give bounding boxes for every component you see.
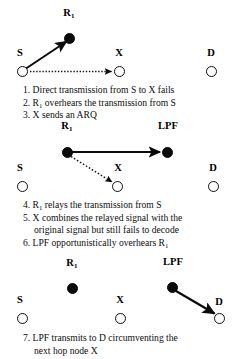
relay-sequence-diagram: R1 S X D 1. Direct transmission from S t… [0,0,235,359]
caption-line-2: 2. R1 overhears the transmission from S [23,97,235,110]
edge-lpf-to-d [176,291,215,314]
node-label-d: D [209,163,217,173]
node-label-r1: R1 [63,8,74,18]
node-x[interactable] [115,313,126,324]
node-label-lpf: LPF [158,121,178,131]
node-label-s: S [17,48,23,58]
caption-line-2-head: 2. R [23,97,39,108]
caption-line-2-sub: 1 [39,102,42,109]
node-label-x: X [114,163,122,173]
caption-line-6-head: 6. LPF opportunistically overhears R [23,237,165,248]
node-x[interactable] [114,66,125,77]
node-label-r1-text: R [63,7,71,18]
caption-line-6: 6. LPF opportunistically overhears R1 [23,237,235,250]
node-x[interactable] [112,181,123,192]
caption-line-1: 1. Direct transmission from S to X fails [23,84,235,97]
caption-line-4-sub: 1 [39,204,42,211]
node-lpf[interactable] [162,147,173,158]
node-r1[interactable] [62,147,73,158]
node-r1[interactable] [67,283,78,294]
node-label-s: S [17,163,23,173]
edge-r1-to-x [71,157,112,183]
caption-line-7b: next hop node X [23,345,235,358]
caption-line-4-head: 4. R [23,199,39,210]
node-label-r1-sub: 1 [71,12,75,20]
node-label-d: D [207,48,215,58]
panel-1-stage: R1 S X D [0,0,235,84]
node-d[interactable] [214,313,225,324]
node-label-lpf: LPF [163,257,183,267]
panel-2: R1 LPF S X D 4. R1 relays the transmissi… [0,118,235,258]
node-label-r1-text: R [66,257,74,268]
node-label-r1: R1 [61,121,72,131]
panel-1-caption: 1. Direct transmission from S to X fails… [0,84,235,122]
node-s[interactable] [17,181,28,192]
node-d[interactable] [206,66,217,77]
caption-line-7a: 7. LPF transmits to D circumventing the [23,332,235,345]
caption-line-6-sub: 1 [165,242,168,249]
caption-line-4: 4. R1 relays the transmission from S [23,199,235,212]
node-label-r1: R1 [66,258,77,268]
node-label-s: S [17,295,23,305]
node-label-r1-sub: 1 [74,262,78,270]
panel-2-stage: R1 LPF S X D [0,118,235,199]
panel-2-caption: 4. R1 relays the transmission from S 5. … [0,199,235,249]
panel-3: R1 LPF S X D 7. LPF transmits to D circu… [0,258,235,359]
node-s[interactable] [17,66,28,77]
node-label-x: X [115,48,123,58]
caption-line-2-tail: overhears the transmission from S [42,97,176,108]
panel-3-caption: 7. LPF transmits to D circumventing the … [0,332,235,357]
node-label-r1-text: R [61,120,69,131]
node-s[interactable] [17,313,28,324]
edge-s-to-r1 [25,42,67,70]
node-r1[interactable] [64,33,75,44]
node-label-x: X [116,295,124,305]
caption-line-4-tail: relays the transmission from S [42,199,161,210]
node-label-d: D [215,297,223,307]
panel-3-stage: R1 LPF S X D [0,258,235,332]
node-lpf[interactable] [167,282,178,293]
panel-1: R1 S X D 1. Direct transmission from S t… [0,0,235,118]
caption-line-5b: original signal but still fails to decod… [23,224,235,237]
node-label-r1-sub: 1 [69,125,73,133]
node-d[interactable] [208,181,219,192]
caption-line-5a: 5. X combines the relayed signal with th… [23,212,235,225]
